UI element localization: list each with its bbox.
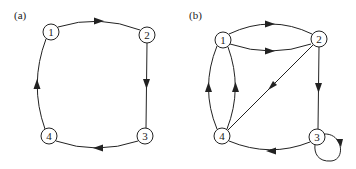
svg-text:2: 2 bbox=[144, 29, 150, 41]
svg-text:4: 4 bbox=[46, 130, 52, 142]
node-a-4: 4 bbox=[41, 128, 57, 144]
panel-a-label: (a) bbox=[14, 9, 27, 22]
panel-b: (b) 1 2 bbox=[189, 9, 343, 161]
panel-a: (a) 1 2 3 4 bbox=[14, 9, 155, 152]
arrowhead-icon bbox=[315, 83, 322, 93]
arrowhead-icon bbox=[265, 48, 275, 55]
node-a-3: 3 bbox=[137, 128, 153, 144]
svg-text:1: 1 bbox=[220, 34, 226, 46]
graph-diagrams: (a) 1 2 3 4 (b) bbox=[0, 0, 356, 169]
svg-text:2: 2 bbox=[316, 33, 322, 45]
arrowhead-icon bbox=[94, 18, 104, 25]
node-a-2: 2 bbox=[139, 27, 155, 43]
node-b-2: 2 bbox=[311, 31, 327, 47]
arrowhead-icon bbox=[205, 82, 212, 92]
node-b-3: 3 bbox=[309, 129, 325, 145]
svg-text:3: 3 bbox=[142, 130, 148, 142]
arrowhead-icon bbox=[93, 145, 103, 152]
node-b-4: 4 bbox=[214, 128, 230, 144]
arrowhead-icon bbox=[336, 139, 343, 147]
edge-b-3-4 bbox=[229, 141, 310, 150]
panel-b-label: (b) bbox=[189, 9, 202, 22]
svg-text:4: 4 bbox=[219, 130, 225, 142]
arrowhead-icon bbox=[265, 21, 275, 28]
arrowhead-icon bbox=[34, 79, 41, 89]
arrowhead-icon bbox=[143, 79, 150, 89]
svg-text:1: 1 bbox=[48, 26, 54, 38]
node-b-1: 1 bbox=[215, 32, 231, 48]
svg-text:3: 3 bbox=[314, 131, 320, 143]
arrowhead-icon bbox=[266, 148, 276, 155]
arrowhead-icon bbox=[232, 82, 239, 92]
node-a-1: 1 bbox=[43, 24, 59, 40]
